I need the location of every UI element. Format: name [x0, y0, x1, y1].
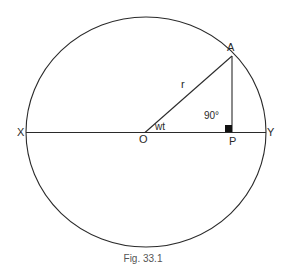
- point-Y-label: Y: [267, 127, 274, 138]
- right-angle-marker: [225, 125, 232, 132]
- circle-diagram: [0, 0, 286, 264]
- angle-label: wt: [155, 121, 165, 132]
- figure-caption: Fig. 33.1: [0, 254, 286, 264]
- center-O-label: O: [139, 134, 148, 145]
- right-angle-label: 90°: [204, 110, 219, 121]
- point-X-label: X: [17, 127, 24, 138]
- point-A-label: A: [227, 42, 234, 53]
- point-P-label: P: [229, 136, 236, 147]
- radius-label: r: [181, 79, 185, 90]
